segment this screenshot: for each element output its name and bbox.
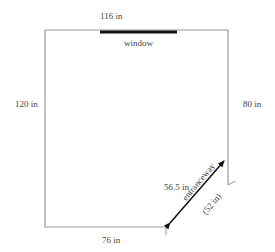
- right-wall-label: 80 in: [243, 99, 261, 109]
- door-tick-right: [228, 181, 235, 185]
- bottom-wall-label: 76 in: [102, 235, 120, 245]
- window-label: window: [124, 38, 153, 48]
- left-wall-label: 120 in: [15, 99, 38, 109]
- top-wall-label: 116 in: [100, 11, 122, 21]
- room-walls: [45, 30, 228, 227]
